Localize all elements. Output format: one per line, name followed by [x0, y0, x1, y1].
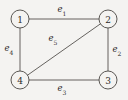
- edge-e4-label: e4: [5, 44, 14, 55]
- edge-e3-label-subscript: 3: [62, 89, 66, 96]
- node-3-label: 3: [99, 76, 117, 85]
- edge-e3-label: e3: [58, 84, 67, 95]
- edge-e1-label: e1: [58, 5, 67, 16]
- edge-e5-line: [28, 24, 101, 75]
- edge-e2-label-subscript: 2: [117, 50, 121, 57]
- graph-diagram: 1 2 3 4 e1 e2 e3 e4 e5: [0, 0, 128, 100]
- edge-e5-label: e5: [49, 34, 58, 45]
- edge-e2-label: e2: [113, 45, 122, 56]
- edge-e1-label-subscript: 1: [62, 10, 66, 17]
- edge-e4-label-subscript: 4: [9, 49, 13, 56]
- node-2-label: 2: [99, 15, 117, 24]
- node-4-label: 4: [11, 76, 29, 85]
- node-1-label: 1: [11, 15, 29, 24]
- edge-e5-label-subscript: 5: [53, 39, 57, 46]
- edges-group: [20, 19, 108, 80]
